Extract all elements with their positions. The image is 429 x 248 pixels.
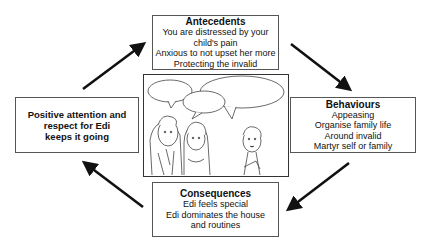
arrow-antecedents-to-behaviours — [291, 44, 348, 88]
consequences-line: Edi feels special — [183, 199, 248, 210]
behaviours-title: Behaviours — [326, 99, 380, 110]
behaviours-line: Organise family life — [315, 120, 392, 131]
behaviours-box: Behaviours Appeasing Organise family lif… — [290, 97, 416, 153]
behaviours-line: Around invalid — [324, 131, 381, 142]
antecedents-line: Protecting the invalid — [174, 59, 258, 70]
behaviours-line: Martyr self or family — [314, 141, 393, 152]
arrow-behaviours-to-consequences — [290, 163, 349, 208]
arrow-consequences-to-maintenance — [86, 164, 143, 207]
behaviours-line: Appeasing — [332, 110, 375, 121]
consequences-box: Consequences Edi feels special Edi domin… — [152, 182, 279, 237]
antecedents-title: Antecedents — [185, 16, 245, 27]
antecedents-box: Antecedents You are distressed by your c… — [152, 15, 279, 70]
arrow-maintenance-to-antecedents — [83, 45, 142, 89]
consequences-title: Consequences — [180, 188, 251, 199]
antecedents-line: Anxious to not upset her more — [155, 48, 275, 59]
family-cartoon-illustration — [143, 74, 289, 177]
consequences-line: Edi dominates the house — [166, 210, 265, 221]
maintenance-line: respect for Edi — [44, 120, 111, 131]
maintenance-line: keeps it going — [45, 131, 109, 142]
maintenance-line: Positive attention and — [28, 109, 127, 120]
antecedents-line: child's pain — [193, 38, 237, 49]
maintenance-box: Positive attention and respect for Edi k… — [15, 97, 139, 153]
antecedents-line: You are distressed by your — [162, 27, 268, 38]
cartoon-people-icon — [144, 75, 287, 175]
consequences-line: and routines — [191, 220, 241, 231]
